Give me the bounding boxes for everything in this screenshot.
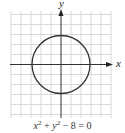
y-axis-label: y (59, 0, 64, 9)
equation-caption: x2 + y2 − 8 = 0 (0, 119, 125, 131)
y-axis-arrow-icon (59, 9, 64, 16)
y-axis (59, 9, 64, 118)
equation-rest: − 8 = 0 (60, 120, 91, 131)
circle-graph-figure: y x x2 + y2 − 8 = 0 (0, 0, 125, 133)
equation-plus: + (42, 120, 53, 131)
x-axis-label: x (116, 57, 121, 69)
coordinate-grid (0, 0, 125, 133)
x-axis-arrow-icon (106, 62, 113, 67)
